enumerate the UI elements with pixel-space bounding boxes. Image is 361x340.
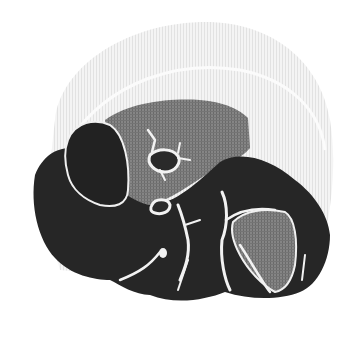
vessel-loop [151, 200, 170, 214]
heart-illustration [0, 0, 361, 340]
central-vessel-opening [149, 150, 179, 172]
heart-illustration-svg [0, 0, 361, 340]
vessel-node [159, 248, 167, 258]
